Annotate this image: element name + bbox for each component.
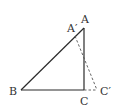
label-a-prime: A′ [66,22,78,35]
label-a: A [80,13,90,26]
segment-ab [21,28,84,90]
triangle-diagram: A A′ B C C′ [0,0,116,111]
label-c: C [80,95,88,108]
segment-a-prime-c-prime [75,36,97,90]
label-c-prime: C′ [100,85,111,98]
label-b: B [9,85,17,98]
